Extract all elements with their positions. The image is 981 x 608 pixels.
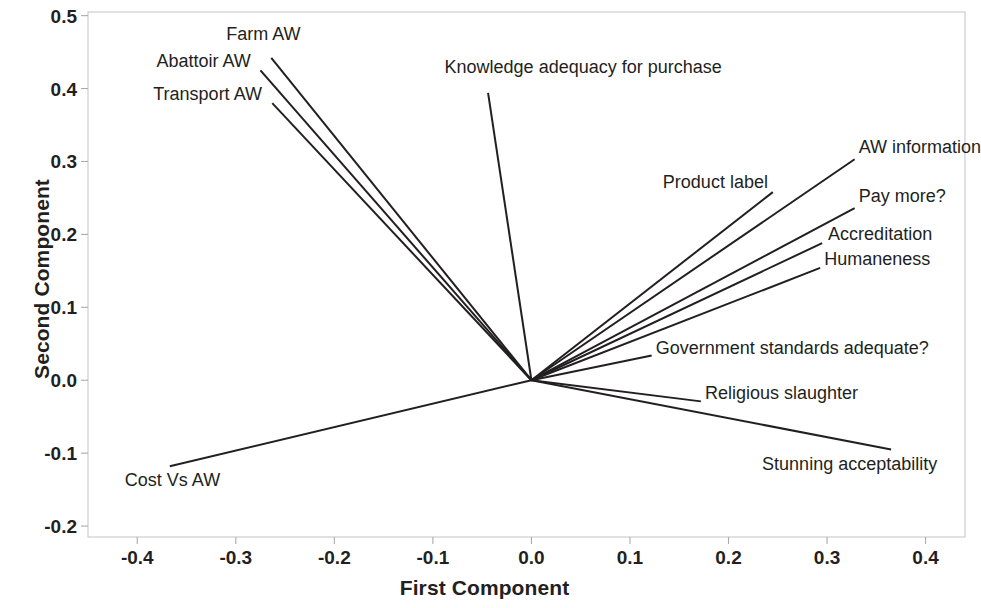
variable-label: Accreditation: [828, 225, 932, 243]
variable-label: Pay more?: [859, 187, 946, 205]
variable-label: AW information: [859, 138, 981, 156]
variable-label: Transport AW: [153, 85, 262, 103]
loading-vector: [531, 380, 700, 401]
loading-vector: [271, 58, 531, 380]
variable-label: Farm AW: [226, 25, 300, 43]
loading-vector: [272, 103, 531, 380]
loading-vector: [531, 243, 822, 380]
variable-label: Government standards adequate?: [656, 339, 929, 357]
variable-label: Product label: [663, 173, 768, 191]
loading-vector: [170, 380, 532, 466]
loading-vectors: [170, 58, 891, 466]
variable-label: Cost Vs AW: [125, 471, 220, 489]
loading-vector: [531, 268, 820, 380]
variable-label: Stunning acceptability: [762, 455, 937, 473]
variable-label: Religious slaughter: [705, 384, 858, 402]
variable-label: Abattoir AW: [156, 52, 250, 70]
variable-label: Humaneness: [824, 250, 930, 268]
variable-label: Knowledge adequacy for purchase: [445, 58, 722, 76]
